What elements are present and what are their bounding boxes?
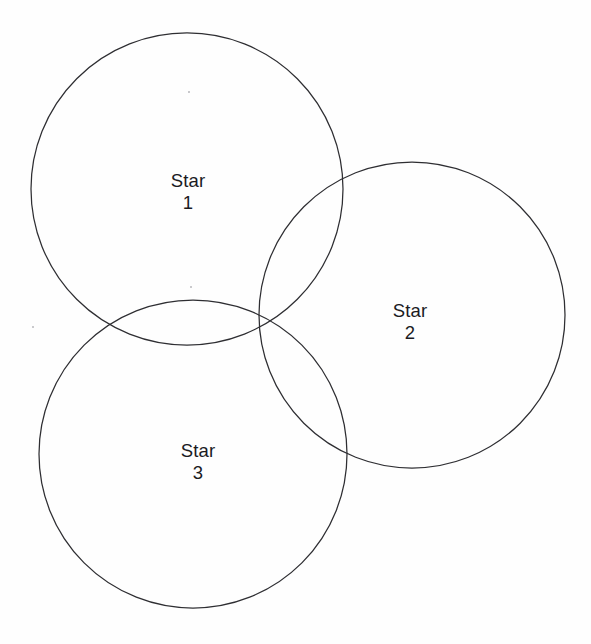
set-label-star-2: Star 2 (393, 300, 427, 344)
set-label-star-2-name: Star (393, 300, 427, 322)
venn-diagram-figure: Star 1 Star 2 Star 3 (0, 0, 591, 644)
set-label-star-3: Star 3 (181, 440, 215, 484)
set-label-star-3-name: Star (181, 440, 215, 462)
set-label-star-3-number: 3 (181, 462, 215, 484)
set-label-star-1: Star 1 (171, 170, 205, 214)
venn-diagram-canvas (0, 0, 591, 644)
set-label-star-1-number: 1 (171, 192, 205, 214)
set-label-star-2-number: 2 (393, 322, 427, 344)
set-label-star-1-name: Star (171, 170, 205, 192)
